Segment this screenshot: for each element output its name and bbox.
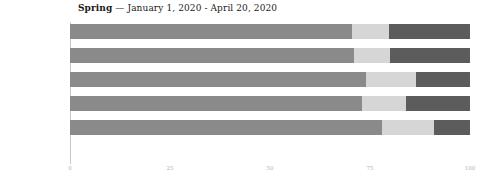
chart-title: Spring — January 1, 2020 - April 20, 202… bbox=[78, 2, 277, 14]
bar-segment-segment_3[interactable] bbox=[389, 24, 470, 39]
x-axis-tick-label: 50 bbox=[267, 164, 274, 172]
chart-title-separator: — bbox=[112, 3, 127, 13]
chart-title-daterange: January 1, 2020 - April 20, 2020 bbox=[127, 3, 277, 13]
x-axis-tick-label: 25 bbox=[167, 164, 174, 172]
bar-segment-segment_3[interactable] bbox=[416, 72, 470, 87]
bar-row[interactable]: thedemocrats bbox=[70, 96, 470, 111]
bar-segment-segment_2[interactable] bbox=[366, 72, 416, 87]
bar-row[interactable]: realdonaldtrump bbox=[70, 48, 470, 63]
bar-segment-segment_1[interactable] bbox=[70, 48, 354, 63]
bar-track bbox=[70, 24, 470, 39]
bar-track bbox=[70, 72, 470, 87]
bar-segment-segment_2[interactable] bbox=[382, 120, 434, 135]
x-axis-tick-label: 75 bbox=[367, 164, 374, 172]
x-axis-tick-label: 100 bbox=[465, 164, 476, 172]
bar-row[interactable]: berniesanders bbox=[70, 72, 470, 87]
bar-segment-segment_2[interactable] bbox=[354, 48, 390, 63]
x-axis: 0255075100 bbox=[70, 164, 470, 176]
bar-segment-segment_1[interactable] bbox=[70, 24, 352, 39]
bar-track bbox=[70, 48, 470, 63]
bar-segment-segment_3[interactable] bbox=[406, 96, 470, 111]
bar-row[interactable]: joebiden bbox=[70, 120, 470, 135]
bar-segment-segment_1[interactable] bbox=[70, 96, 362, 111]
plot-area: goprealdonaldtrumpberniesandersthedemocr… bbox=[70, 22, 470, 144]
bar-track bbox=[70, 120, 470, 135]
stacked-bar-chart: Spring — January 1, 2020 - April 20, 202… bbox=[0, 0, 486, 176]
bar-row[interactable]: gop bbox=[70, 24, 470, 39]
bar-segment-segment_3[interactable] bbox=[434, 120, 470, 135]
bar-segment-segment_3[interactable] bbox=[390, 48, 470, 63]
bar-segment-segment_1[interactable] bbox=[70, 120, 382, 135]
x-axis-tick-label: 0 bbox=[68, 164, 72, 172]
bar-segment-segment_2[interactable] bbox=[362, 96, 406, 111]
bar-track bbox=[70, 96, 470, 111]
chart-title-season: Spring bbox=[78, 3, 112, 13]
bar-segment-segment_1[interactable] bbox=[70, 72, 366, 87]
bar-segment-segment_2[interactable] bbox=[352, 24, 389, 39]
